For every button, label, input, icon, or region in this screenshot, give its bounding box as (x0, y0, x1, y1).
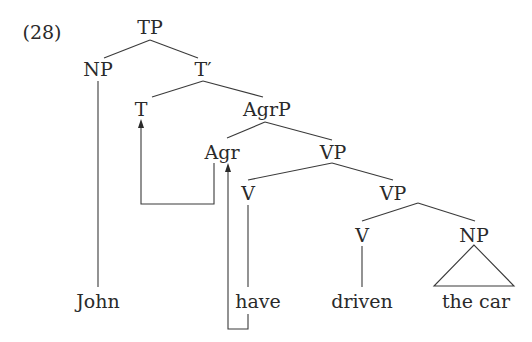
node-t: T (135, 100, 148, 119)
node-np-subject: NP (83, 60, 112, 79)
node-t-bar: T′ (195, 60, 212, 79)
branch-agrp-agr (227, 122, 265, 138)
np-triangle (434, 245, 514, 286)
branch-agrp-vp (265, 122, 332, 140)
leaf-driven: driven (331, 292, 393, 311)
branch-tbar-t (152, 81, 203, 97)
node-agr: Agr (205, 143, 240, 162)
node-vp-lower: VP (380, 184, 407, 203)
node-v-lower: V (355, 226, 369, 245)
node-v-upper: V (241, 184, 255, 203)
branch-vp-v (248, 163, 332, 180)
node-agrp: AgrP (243, 100, 291, 119)
branch-vp2-np (418, 203, 475, 221)
movement-path-agr-to-t (141, 128, 214, 204)
branch-tbar-agrp (203, 81, 263, 97)
arrowhead-to-t-icon (138, 119, 144, 128)
leaf-john: John (76, 292, 120, 311)
branch-tp-np (104, 40, 150, 58)
node-vp-upper: VP (320, 143, 347, 162)
branch-vp2-v2 (362, 203, 418, 221)
node-np-object: NP (459, 226, 488, 245)
syntax-tree-diagram: (28) TP NP T′ T AgrP Agr VP V VP V NP Jo… (0, 0, 532, 342)
branch-vp-vp (332, 163, 393, 180)
node-tp: TP (137, 18, 162, 37)
branch-tp-tbar (150, 40, 198, 58)
arrowhead-to-agr-icon (225, 163, 231, 172)
leaf-have: have (235, 292, 281, 311)
example-number: (28) (22, 23, 61, 42)
leaf-the-car: the car (442, 292, 510, 311)
